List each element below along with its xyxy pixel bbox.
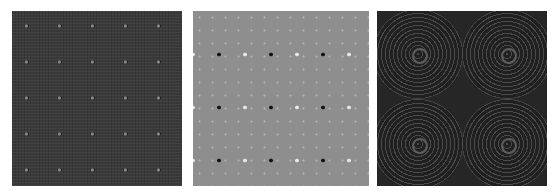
ring-pattern [377,11,463,99]
image-panel-concentric-rings [377,11,547,186]
ring-pattern [462,99,547,186]
ring-pattern [377,99,463,186]
ring-pattern [462,11,547,99]
image-panel-dot-grid [193,11,369,186]
image-panel-lattice [12,11,182,186]
